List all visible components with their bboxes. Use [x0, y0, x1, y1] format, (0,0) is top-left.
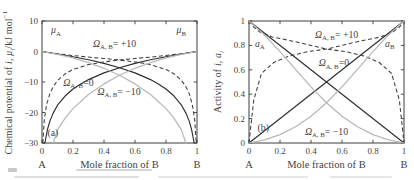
mu-A-label-a: μA [50, 24, 61, 36]
caption-smudge [330, 176, 392, 178]
x-tick-label: 1 [402, 146, 407, 156]
y-tick-label: 10 [29, 16, 39, 26]
x-tick-label: 0.8 [160, 146, 172, 156]
panel-a-tag-a: (a) [47, 127, 58, 139]
x-tick-label: 0.4 [305, 146, 317, 156]
omega-zero-label-a: ΩA, B=0 [63, 77, 93, 89]
caption-smudge [158, 176, 308, 178]
y-tick-label: −20 [24, 108, 39, 118]
panel-b-x-end-label-B: B [397, 159, 411, 170]
a-B-label-b: aB [385, 38, 395, 50]
omega-zero-label-b: ΩA, B=0 [319, 57, 349, 69]
panel-a: 00.20.40.60.81100−10−20−30μAμBΩA, B= +10… [24, 16, 199, 156]
omega-minus10-label-b: ΩA, B= −10 [305, 126, 348, 138]
curve-mu-B-omega-plus10 [43, 52, 197, 144]
y-tick-label: 0.4 [234, 89, 246, 99]
omega-plus10-label-a: ΩA, B= +10 [93, 38, 136, 50]
panel-b-x-axis-title: Mole fraction of B [249, 159, 404, 170]
x-tick-label: 0.2 [67, 146, 78, 156]
x-tick-label: 1 [195, 146, 200, 156]
curve-mu-B-omega-0 [45, 52, 197, 144]
y-tick-label: −10 [24, 77, 39, 87]
omega-minus10-label-a: ΩA, B= −10 [97, 86, 140, 98]
mu-B-label-a: μB [176, 24, 187, 36]
panel-a-y-axis-title: Chemical potential of i, μi/kJ mol−1 [1, 0, 16, 168]
x-tick-label: 0.4 [98, 146, 110, 156]
figure-svg: 00.20.40.60.81100−10−20−30μAμBΩA, B= +10… [0, 0, 414, 180]
caption-smudge [76, 169, 152, 171]
x-tick-label: 0 [40, 146, 45, 156]
x-tick-label: 0.2 [274, 146, 285, 156]
curve-mu-A-omega-plus10 [42, 52, 196, 144]
x-tick-label: 0.6 [129, 146, 141, 156]
a-A-label-b: aA [255, 38, 265, 50]
x-tick-label: 0.6 [336, 146, 348, 156]
panel-a-x-end-label-B: B [190, 159, 204, 170]
x-tick-label: 0 [247, 146, 252, 156]
y-tick-label: −30 [24, 138, 39, 148]
figure-regular-solution: 00.20.40.60.81100−10−20−30μAμBΩA, B= +10… [0, 0, 414, 180]
y-tick-label: 1 [241, 16, 246, 26]
y-tick-label: 0 [241, 138, 246, 148]
panel-b-tag-b: (b) [258, 122, 269, 134]
caption-smudge [8, 168, 17, 172]
y-tick-label: 0.6 [234, 65, 246, 75]
panel-b-y-axis-title: Activity of i, ai [212, 0, 226, 167]
y-tick-label: 0 [34, 47, 39, 57]
omega-plus10-label-b: ΩA, B= +10 [315, 29, 358, 41]
y-tick-label: 0.2 [234, 114, 245, 124]
y-tick-label: 0.8 [234, 40, 246, 50]
x-tick-label: 0.8 [367, 146, 379, 156]
panel-b: 00.20.40.60.8110.80.60.40.20aAaBΩA, B= +… [234, 16, 407, 156]
caption-smudge [14, 176, 139, 178]
